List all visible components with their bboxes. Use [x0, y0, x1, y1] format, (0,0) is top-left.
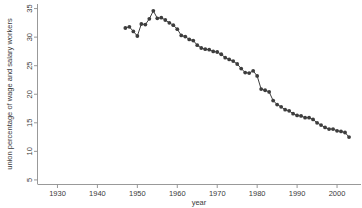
- data-point: [235, 62, 239, 66]
- data-point: [171, 23, 175, 27]
- data-point: [207, 48, 211, 52]
- data-point: [343, 131, 347, 135]
- data-point: [291, 112, 295, 116]
- x-tick-label: 1960: [169, 189, 186, 198]
- data-point: [251, 69, 255, 73]
- data-point: [295, 113, 299, 117]
- data-point: [311, 117, 315, 121]
- data-point: [187, 38, 191, 42]
- data-point: [155, 16, 159, 20]
- x-tick-label: 2000: [329, 189, 346, 198]
- data-point: [323, 125, 327, 129]
- x-axis-tick-labels: 19301940195019601970198019902000: [49, 189, 345, 198]
- data-point: [339, 129, 343, 133]
- data-point: [143, 23, 147, 27]
- data-point: [271, 99, 275, 103]
- data-point: [243, 71, 247, 75]
- data-point: [303, 116, 307, 120]
- data-point: [315, 121, 319, 125]
- data-point: [215, 50, 219, 54]
- data-point: [167, 21, 171, 25]
- x-tick-label: 1980: [249, 189, 266, 198]
- x-axis-ticks: [57, 185, 337, 189]
- data-series-line: [125, 11, 349, 137]
- x-tick-label: 1940: [89, 189, 106, 198]
- x-tick-label: 1930: [49, 189, 66, 198]
- data-point: [127, 25, 131, 29]
- data-point: [195, 43, 199, 47]
- data-point: [247, 71, 251, 75]
- data-point: [183, 35, 187, 39]
- data-point: [331, 127, 335, 131]
- data-point: [159, 16, 163, 20]
- y-axis-label: union percentage of wage and salary work…: [5, 18, 14, 170]
- data-point: [231, 59, 235, 63]
- data-point: [275, 103, 279, 107]
- y-axis-tick-labels: 5101520253035: [25, 4, 34, 182]
- x-tick-label: 1950: [129, 189, 146, 198]
- data-point: [319, 123, 323, 127]
- x-tick-label: 1970: [209, 189, 226, 198]
- data-point: [267, 90, 271, 94]
- chart-container: 5101520253035 19301940195019601970198019…: [0, 0, 362, 208]
- data-point: [327, 127, 331, 131]
- x-axis-label: year: [192, 198, 207, 207]
- y-axis: 5101520253035: [25, 4, 37, 184]
- data-point: [179, 34, 183, 38]
- data-point: [147, 17, 151, 21]
- data-point: [255, 74, 259, 78]
- data-point: [135, 34, 139, 38]
- data-point: [163, 18, 167, 22]
- data-point: [239, 67, 243, 71]
- x-tick-label: 1990: [289, 189, 306, 198]
- data-point: [203, 47, 207, 51]
- data-point: [211, 50, 215, 54]
- data-point: [263, 88, 267, 92]
- data-point: [199, 46, 203, 50]
- y-tick-label: 15: [25, 119, 34, 127]
- data-point: [299, 114, 303, 118]
- data-point: [191, 39, 195, 43]
- y-tick-label: 25: [25, 62, 34, 70]
- data-point: [123, 26, 127, 30]
- data-point: [151, 9, 155, 13]
- x-axis: 19301940195019601970198019902000: [38, 185, 362, 199]
- data-point: [175, 27, 179, 31]
- data-point: [223, 56, 227, 60]
- data-point: [283, 108, 287, 112]
- y-tick-label: 20: [25, 90, 34, 98]
- data-point: [139, 22, 143, 26]
- data-point: [279, 105, 283, 109]
- y-axis-ticks: [34, 9, 38, 180]
- data-point: [131, 30, 135, 34]
- y-tick-label: 35: [25, 4, 34, 12]
- y-tick-label: 30: [25, 33, 34, 41]
- line-chart-plot: 5101520253035 19301940195019601970198019…: [0, 0, 362, 208]
- data-point: [335, 129, 339, 133]
- data-point: [287, 109, 291, 113]
- y-tick-label: 5: [25, 178, 34, 182]
- data-point: [227, 58, 231, 62]
- data-point: [259, 87, 263, 91]
- data-point: [219, 52, 223, 56]
- y-tick-label: 10: [25, 147, 34, 155]
- data-series-markers: [123, 9, 350, 139]
- data-point: [347, 135, 351, 139]
- data-point: [307, 116, 311, 120]
